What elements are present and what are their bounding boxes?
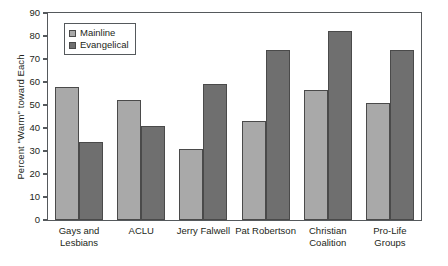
y-axis-tick: 30: [29, 145, 47, 157]
x-axis-label-2: Jerry Falwell: [172, 225, 234, 237]
legend-item-evangelical: Evangelical: [69, 39, 129, 51]
y-axis-tick-label: 60: [29, 76, 43, 88]
bar-evangelical-4: [328, 31, 352, 220]
bar-mainline-4: [304, 90, 328, 220]
bar-mainline-5: [366, 103, 390, 220]
bar-group: [179, 13, 227, 220]
y-axis-tick: 90: [29, 7, 47, 19]
y-axis-ticks: 9080706050403020100: [0, 12, 47, 221]
bar-evangelical-5: [390, 50, 414, 220]
y-axis-tick-label: 0: [35, 214, 43, 226]
legend-label-evangelical: Evangelical: [80, 39, 129, 51]
y-axis-tick-label: 30: [29, 145, 43, 157]
x-axis-label-0: Gays and Lesbians: [48, 225, 110, 248]
y-axis-tick-label: 80: [29, 30, 43, 42]
x-axis-label-3: Pat Robertson: [235, 225, 297, 237]
y-axis-tick-label: 90: [29, 7, 43, 19]
y-axis-tick-label: 50: [29, 99, 43, 111]
legend-item-mainline: Mainline: [69, 27, 129, 39]
bar-mainline-3: [242, 121, 266, 220]
y-axis-tick: 40: [29, 122, 47, 134]
y-axis-tick: 60: [29, 76, 47, 88]
y-axis-tick: 10: [29, 191, 47, 203]
y-axis-tick: 0: [35, 214, 47, 226]
x-axis-label-5: Pro-Life Groups: [359, 225, 421, 248]
bar-mainline-1: [117, 100, 141, 220]
legend-swatch-mainline: [69, 30, 76, 37]
bar-group: [242, 13, 290, 220]
y-axis-tick: 50: [29, 99, 47, 111]
x-axis-labels: Gays and LesbiansACLUJerry FalwellPat Ro…: [48, 225, 421, 265]
legend-swatch-evangelical: [69, 42, 76, 49]
y-axis-tick-label: 40: [29, 122, 43, 134]
bar-mainline-0: [55, 87, 79, 220]
bar-evangelical-3: [266, 50, 290, 220]
y-axis-tick: 80: [29, 30, 47, 42]
bar-mainline-2: [179, 149, 203, 220]
y-axis-tick-label: 10: [29, 191, 43, 203]
y-axis-tick-label: 20: [29, 168, 43, 180]
y-axis-tick: 70: [29, 53, 47, 65]
bar-evangelical-0: [79, 142, 103, 220]
y-axis-tick-label: 70: [29, 53, 43, 65]
chart-legend: MainlineEvangelical: [64, 23, 136, 55]
bar-evangelical-2: [203, 84, 227, 220]
legend-label-mainline: Mainline: [80, 27, 115, 39]
y-axis-tick: 20: [29, 168, 47, 180]
bar-group: [304, 13, 352, 220]
bar-chart: Percent "Warm" toward Each 9080706050403…: [0, 0, 448, 266]
bar-evangelical-1: [141, 126, 165, 220]
bar-group: [366, 13, 414, 220]
x-axis-label-4: Christian Coalition: [297, 225, 359, 248]
x-axis-label-1: ACLU: [110, 225, 172, 237]
